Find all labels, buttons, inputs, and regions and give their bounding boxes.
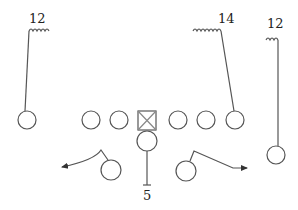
slot-receiver-route [221, 31, 234, 111]
right-back-route [190, 151, 247, 168]
right-receiver-motion-squiggle [266, 38, 278, 40]
play-diagram [0, 0, 298, 210]
quarterback-number: 5 [143, 189, 151, 202]
left-back-route [62, 150, 108, 167]
center-x-mark [138, 111, 156, 130]
left-receiver-motion-squiggle [29, 29, 49, 31]
quarterback [137, 131, 157, 151]
lineman-4 [197, 111, 215, 129]
left-receiver-route [25, 31, 29, 111]
lineman-3 [169, 111, 187, 129]
slot-receiver-number: 14 [218, 12, 235, 25]
lineman-2 [110, 111, 128, 129]
right-receiver [267, 146, 285, 164]
left-back [101, 160, 121, 180]
left-receiver-number: 12 [29, 12, 46, 25]
right-receiver-number: 12 [267, 17, 284, 30]
tight-end [226, 111, 244, 129]
lineman-1 [82, 111, 100, 129]
slot-receiver-motion-squiggle [193, 29, 221, 31]
left-receiver [18, 111, 36, 129]
right-back [176, 161, 196, 181]
